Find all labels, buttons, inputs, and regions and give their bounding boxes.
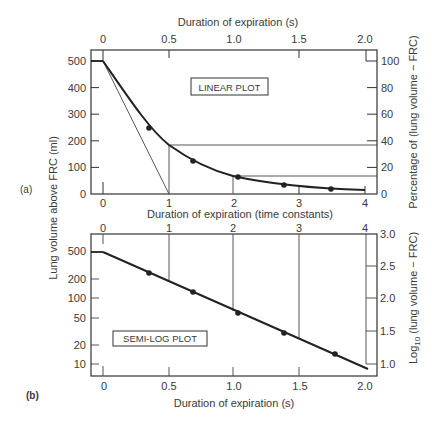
linear-plot-label: LINEAR PLOT bbox=[199, 82, 261, 93]
svg-text:2.0: 2.0 bbox=[357, 380, 372, 392]
svg-text:500: 500 bbox=[68, 245, 86, 257]
svg-text:0: 0 bbox=[100, 33, 106, 45]
svg-text:40: 40 bbox=[381, 135, 393, 147]
bottom-x-tick-labels-b: 0 0.5 1.0 1.5 2.0 bbox=[101, 380, 373, 392]
svg-text:200: 200 bbox=[68, 135, 86, 147]
svg-text:10: 10 bbox=[74, 358, 86, 370]
svg-text:20: 20 bbox=[74, 339, 86, 351]
svg-text:2.0: 2.0 bbox=[357, 33, 372, 45]
plot-frame-a bbox=[91, 50, 377, 194]
svg-text:4: 4 bbox=[362, 197, 368, 209]
svg-text:2: 2 bbox=[230, 222, 236, 234]
top-x-tick-labels-b: 0 1 2 3 4 bbox=[100, 222, 368, 234]
right-y-tick-labels-a: 100 80 60 40 20 0 bbox=[381, 55, 399, 200]
svg-text:1.0: 1.0 bbox=[226, 380, 241, 392]
left-y-tick-labels-b: 500 200 100 50 20 10 bbox=[68, 245, 86, 370]
svg-text:1.5: 1.5 bbox=[292, 380, 307, 392]
svg-text:500: 500 bbox=[68, 55, 86, 67]
svg-text:400: 400 bbox=[68, 82, 86, 94]
svg-text:3.0: 3.0 bbox=[380, 228, 395, 240]
top-x-axis-title: Duration of expiration (s) bbox=[178, 16, 298, 28]
svg-text:100: 100 bbox=[68, 161, 86, 173]
semilog-plot-label: SEMI-LOG PLOT bbox=[123, 333, 197, 344]
svg-text:2.5: 2.5 bbox=[380, 260, 395, 272]
right-y-axis-title-a: Percentage of (lung volume − FRC) bbox=[407, 35, 419, 208]
bottom-x-axis-title-a: Duration of expiration (time constants) bbox=[147, 208, 333, 220]
semilog-decay-line bbox=[103, 252, 368, 369]
svg-text:2.0: 2.0 bbox=[380, 292, 395, 304]
figure: Duration of expiration (s) 0 0.5 1.0 1.5… bbox=[0, 0, 440, 425]
svg-text:300: 300 bbox=[68, 108, 86, 120]
initial-tangent-line bbox=[103, 61, 169, 194]
svg-text:60: 60 bbox=[381, 108, 393, 120]
svg-text:0.5: 0.5 bbox=[161, 380, 176, 392]
svg-text:50: 50 bbox=[74, 312, 86, 324]
panel-a-label: (a) bbox=[20, 184, 32, 195]
panel-a-linear-plot: Duration of expiration (s) 0 0.5 1.0 1.5… bbox=[20, 16, 419, 220]
svg-text:1.5: 1.5 bbox=[380, 325, 395, 337]
svg-text:100: 100 bbox=[68, 292, 86, 304]
left-y-axis-title: Lung volume above FRC (ml) bbox=[47, 136, 59, 280]
data-points-a bbox=[146, 125, 334, 192]
svg-text:0: 0 bbox=[381, 188, 387, 200]
svg-text:100: 100 bbox=[381, 55, 399, 67]
svg-text:1.0: 1.0 bbox=[380, 358, 395, 370]
bottom-x-axis-title-b: Duration of expiration (s) bbox=[174, 397, 294, 409]
right-y-axis-title-b: Log10 (lung volume − FRC) bbox=[407, 232, 422, 364]
panel-b-label: (b) bbox=[26, 390, 39, 401]
svg-text:3: 3 bbox=[296, 222, 302, 234]
svg-text:200: 200 bbox=[68, 273, 86, 285]
svg-text:1.5: 1.5 bbox=[291, 33, 306, 45]
panel-b-semilog-plot: 0 1 2 3 4 bbox=[26, 222, 422, 409]
svg-text:0: 0 bbox=[100, 197, 106, 209]
svg-text:20: 20 bbox=[381, 161, 393, 173]
svg-text:80: 80 bbox=[381, 82, 393, 94]
svg-text:1: 1 bbox=[166, 222, 172, 234]
svg-text:1.0: 1.0 bbox=[226, 33, 241, 45]
right-y-tick-labels-b: 3.0 2.5 2.0 1.5 1.0 bbox=[380, 228, 395, 370]
svg-text:0: 0 bbox=[80, 188, 86, 200]
left-y-tick-labels-a: 500 400 300 200 100 0 bbox=[68, 55, 86, 200]
svg-text:4: 4 bbox=[362, 222, 368, 234]
svg-text:0.5: 0.5 bbox=[161, 33, 176, 45]
top-x-tick-labels: 0 0.5 1.0 1.5 2.0 bbox=[100, 33, 373, 45]
svg-text:0: 0 bbox=[100, 222, 106, 234]
svg-text:0: 0 bbox=[101, 380, 107, 392]
